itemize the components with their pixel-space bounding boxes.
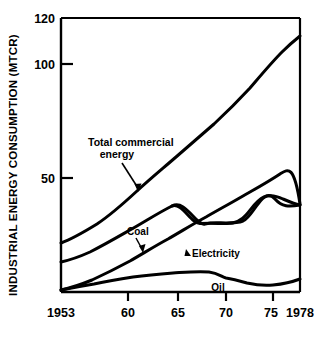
x-tick-label-70: 70 (219, 306, 233, 320)
energy-consumption-line-chart: INDUSTRIAL ENERGY CONSUMPTION (MTCR) 120… (0, 0, 320, 341)
x-tick-label-75: 75 (264, 306, 278, 320)
x-tick-label-1978: 1978 (286, 306, 314, 320)
chart-container: INDUSTRIAL ENERGY CONSUMPTION (MTCR) 120… (0, 0, 320, 341)
annotation-label-electricity: Electricity (192, 248, 240, 259)
y-tick-label-50: 50 (41, 172, 55, 186)
annotation-oil: Oil (211, 282, 225, 293)
y-tick-label-120: 120 (34, 12, 55, 26)
annotation-electricity: Electricity (185, 248, 241, 259)
x-tick-label-65: 65 (171, 306, 185, 320)
y-axis-title: INDUSTRIAL ENERGY CONSUMPTION (MTCR) (7, 34, 19, 296)
annotation-label-oil: Oil (211, 282, 225, 293)
x-tick-label-60: 60 (121, 306, 135, 320)
annotation-label-coal: Coal (127, 226, 149, 237)
y-tick-label-100: 100 (34, 58, 55, 72)
x-tick-label-1953: 1953 (47, 306, 75, 320)
annotation-label-total-line2: energy (100, 148, 135, 160)
annotation-label-total-line1: Total commercial (88, 136, 174, 148)
